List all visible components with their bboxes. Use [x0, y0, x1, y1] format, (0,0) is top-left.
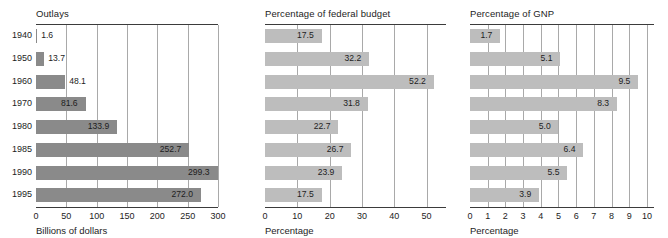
gridline [218, 25, 219, 207]
bar-row: 48.1 [36, 71, 218, 94]
x-tick-label: 2 [503, 211, 508, 221]
bar-rows: 1.613.748.181.6133.9252.7299.3272.0 [36, 25, 218, 207]
bar-row: 22.7 [265, 116, 446, 139]
year-label: 1980 [12, 115, 32, 138]
x-tick-label: 250 [180, 211, 195, 221]
x-tick-label: 50 [422, 211, 432, 221]
bar-value-label: 3.9 [517, 187, 533, 202]
bar-row: 9.5 [470, 71, 654, 94]
x-tick-label: 3 [521, 211, 526, 221]
bar-rows: 17.532.252.231.822.726.723.917.5 [265, 25, 446, 207]
bar-value-label: 8.3 [595, 96, 611, 111]
bar-row: 5.1 [470, 48, 654, 71]
plot-area: 1.613.748.181.6133.9252.7299.3272.0 [36, 24, 218, 208]
x-tick-label: 8 [609, 211, 614, 221]
x-tick-label: 0 [467, 211, 472, 221]
plot-area: 1.75.19.58.35.06.45.53.9 [470, 24, 654, 208]
bar-value-label: 1.7 [478, 28, 494, 43]
x-tick-label: 20 [325, 211, 335, 221]
year-label: 1960 [12, 70, 32, 93]
year-label: 1995 [12, 183, 32, 206]
panel-percentage-of-federal-budget: Percentage of federal budget 17.532.252.… [265, 0, 446, 238]
bar[interactable] [36, 75, 65, 89]
x-tick-label: 7 [591, 211, 596, 221]
bar-value-label: 133.9 [86, 119, 112, 134]
panel-title: Outlays [36, 8, 69, 19]
bar-value-label: 52.2 [407, 74, 428, 89]
x-tick-label: 200 [150, 211, 165, 221]
year-label: 1970 [12, 92, 32, 115]
bar-value-label: 17.5 [295, 187, 316, 202]
x-tick-label: 300 [210, 211, 225, 221]
x-tick-label: 6 [574, 211, 579, 221]
bar[interactable] [36, 29, 37, 43]
year-label: 1950 [12, 47, 32, 70]
bar-value-label: 17.5 [295, 28, 316, 43]
x-tick-label: 0 [33, 211, 38, 221]
x-tick-label: 9 [627, 211, 632, 221]
panel-percentage-of-gnp: Percentage of GNP 1.75.19.58.35.06.45.53… [470, 0, 654, 238]
x-tick-label: 30 [357, 211, 367, 221]
bar-row: 299.3 [36, 162, 218, 185]
x-axis-label: Billions of dollars [36, 225, 107, 236]
bar-row: 17.5 [265, 25, 446, 48]
bar-value-label: 1.6 [39, 28, 55, 43]
bar-row: 31.8 [265, 93, 446, 116]
bar-row: 32.2 [265, 48, 446, 71]
x-axis-label: Percentage [470, 225, 519, 236]
bar-row: 3.9 [470, 184, 654, 207]
bar-row: 133.9 [36, 116, 218, 139]
bar-value-label: 299.3 [186, 165, 212, 180]
bar-value-label: 26.7 [325, 142, 346, 157]
bar-value-label: 32.2 [342, 51, 363, 66]
bar-value-label: 252.7 [158, 142, 184, 157]
bar-row: 17.5 [265, 184, 446, 207]
bar-row: 1.7 [470, 25, 654, 48]
x-tick-label: 4 [538, 211, 543, 221]
x-tick-label: 40 [389, 211, 399, 221]
bar-value-label: 272.0 [170, 187, 196, 202]
bar-row: 23.9 [265, 162, 446, 185]
bar-value-label: 5.5 [546, 165, 562, 180]
x-tick-label: 5 [556, 211, 561, 221]
bar[interactable] [36, 52, 44, 66]
bar-row: 6.4 [470, 139, 654, 162]
bar-value-label: 48.1 [67, 74, 88, 89]
bar-value-label: 81.6 [59, 96, 80, 111]
bar-row: 8.3 [470, 93, 654, 116]
panel-title: Percentage of federal budget [265, 8, 390, 19]
bar-rows: 1.75.19.58.35.06.45.53.9 [470, 25, 654, 207]
x-tick-label: 10 [642, 211, 652, 221]
x-tick-label: 1 [485, 211, 490, 221]
bar-row: 5.0 [470, 116, 654, 139]
bar-value-label: 5.1 [539, 51, 555, 66]
year-label: 1940 [12, 24, 32, 47]
x-tick-label: 100 [89, 211, 104, 221]
x-tick-label: 10 [292, 211, 302, 221]
year-label: 1985 [12, 138, 32, 161]
bar-value-label: 23.9 [316, 165, 337, 180]
panel-outlays: Outlays 19401950196019701980198519901995… [36, 0, 218, 238]
plot-area: 17.532.252.231.822.726.723.917.5 [265, 24, 446, 208]
x-tick-label: 0 [262, 211, 267, 221]
bar-value-label: 9.5 [616, 74, 632, 89]
bar-row: 81.6 [36, 93, 218, 116]
x-tick-label: 150 [119, 211, 134, 221]
panel-title: Percentage of GNP [470, 8, 554, 19]
bar[interactable] [470, 75, 638, 89]
bar-row: 1.6 [36, 25, 218, 48]
bar-value-label: 31.8 [341, 96, 362, 111]
bar-row: 13.7 [36, 48, 218, 71]
bar-value-label: 13.7 [46, 51, 67, 66]
bar-value-label: 6.4 [562, 142, 578, 157]
bar-value-label: 5.0 [537, 119, 553, 134]
bar-row: 272.0 [36, 184, 218, 207]
bar-row: 26.7 [265, 139, 446, 162]
bar-row: 252.7 [36, 139, 218, 162]
bar-row: 52.2 [265, 71, 446, 94]
bar-value-label: 22.7 [312, 119, 333, 134]
x-tick-label: 50 [61, 211, 71, 221]
year-label: 1990 [12, 161, 32, 184]
figure-panel-bar-chart: Outlays 19401950196019701980198519901995… [0, 0, 668, 238]
bar-row: 5.5 [470, 162, 654, 185]
